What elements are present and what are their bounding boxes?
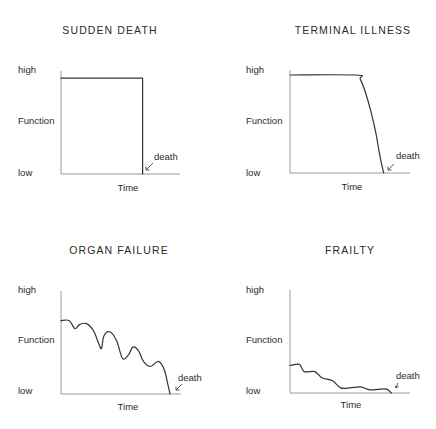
x-label-time: Time <box>341 399 362 410</box>
y-label-high: high <box>18 64 36 75</box>
trajectory-curve <box>61 320 170 394</box>
death-arrow-icon <box>146 163 153 170</box>
x-label-time: Time <box>118 182 139 193</box>
trajectory-curve <box>290 364 392 393</box>
axes <box>61 291 181 394</box>
axes <box>290 70 410 173</box>
panel-title: FRAILTY <box>325 244 375 256</box>
trajectory-curve <box>61 78 143 174</box>
death-arrow-icon <box>388 164 394 170</box>
y-label-low: low <box>18 167 32 178</box>
x-label-time: Time <box>342 181 363 192</box>
y-label-low: low <box>18 385 32 396</box>
y-label-high: high <box>246 284 264 295</box>
panel-terminal-illness: TERMINAL ILLNESS high Function low death… <box>246 24 420 192</box>
y-label-function: Function <box>18 334 54 345</box>
death-annotation: death <box>396 150 420 161</box>
panel-title: SUDDEN DEATH <box>62 24 157 36</box>
death-annotation: death <box>154 151 178 162</box>
y-label-high: high <box>246 64 264 75</box>
panel-title: ORGAN FAILURE <box>69 244 168 256</box>
x-label-time: Time <box>118 401 139 412</box>
y-label-function: Function <box>18 115 54 126</box>
panel-sudden-death: SUDDEN DEATH high Function low death Tim… <box>18 24 180 193</box>
trajectory-curve <box>290 75 384 173</box>
y-label-low: low <box>246 167 260 178</box>
trajectories-figure: SUDDEN DEATH high Function low death Tim… <box>0 0 436 429</box>
y-label-function: Function <box>246 334 282 345</box>
panel-organ-failure: ORGAN FAILURE high Function low death Ti… <box>18 244 202 412</box>
death-arrow-icon <box>395 383 399 388</box>
y-label-low: low <box>246 385 260 396</box>
panel-frailty: FRAILTY high Function low death Time <box>246 244 420 410</box>
y-label-function: Function <box>246 115 282 126</box>
death-annotation: death <box>178 372 202 383</box>
y-label-high: high <box>18 284 36 295</box>
axes <box>290 290 410 393</box>
panel-title: TERMINAL ILLNESS <box>295 24 411 36</box>
death-arrow-icon <box>176 384 182 390</box>
death-annotation: death <box>396 370 420 381</box>
